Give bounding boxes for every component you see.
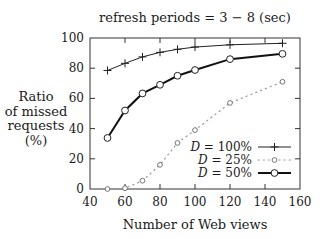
data-point bbox=[158, 162, 163, 167]
data-point bbox=[191, 43, 199, 51]
data-point bbox=[105, 187, 110, 192]
plot-frame bbox=[90, 38, 300, 189]
y-axis-label: Ratio of missed requests (%) bbox=[5, 89, 68, 148]
y-axis-label-line-3: requests bbox=[8, 118, 65, 133]
data-point bbox=[280, 79, 285, 84]
data-point bbox=[175, 141, 180, 146]
data-point bbox=[226, 41, 234, 49]
data-point bbox=[227, 56, 234, 63]
data-point bbox=[192, 67, 199, 74]
data-point bbox=[123, 186, 128, 191]
series-line bbox=[108, 82, 283, 189]
x-tick-label: 120 bbox=[219, 195, 242, 209]
legend-marker bbox=[271, 143, 279, 151]
data-point bbox=[279, 39, 287, 47]
data-point bbox=[104, 135, 111, 142]
legend-label: D = 50% bbox=[197, 166, 252, 180]
series-d-25- bbox=[105, 79, 285, 191]
y-tick-label: 20 bbox=[69, 152, 84, 166]
y-tick-label: 40 bbox=[69, 122, 84, 136]
y-tick-label: 80 bbox=[69, 61, 84, 75]
axis-ticks bbox=[90, 38, 300, 189]
data-point bbox=[174, 72, 181, 79]
x-axis-label: Number of Web views bbox=[123, 217, 268, 232]
legend-label: D = 100% bbox=[189, 140, 252, 154]
legend: D = 100%D = 25%D = 50% bbox=[189, 140, 291, 180]
x-tick-label: 80 bbox=[152, 195, 167, 209]
data-point bbox=[104, 66, 112, 74]
x-tick-label: 100 bbox=[184, 195, 207, 209]
data-point bbox=[157, 81, 164, 88]
data-point bbox=[121, 59, 129, 67]
data-point bbox=[279, 50, 286, 57]
y-axis-label-line-1: Ratio bbox=[18, 89, 53, 104]
data-point bbox=[193, 128, 198, 133]
chart: refresh periods = 3 − 8 (sec) Ratio of m… bbox=[0, 0, 323, 239]
y-axis-label-line-4: (%) bbox=[25, 133, 48, 148]
chart-title: refresh periods = 3 − 8 (sec) bbox=[99, 10, 291, 25]
series-group bbox=[104, 39, 287, 191]
data-point bbox=[122, 107, 129, 114]
x-tick-label: 60 bbox=[117, 195, 132, 209]
data-point bbox=[156, 48, 164, 56]
y-axis-label-line-2: of missed bbox=[5, 104, 68, 119]
legend-label: D = 25% bbox=[197, 153, 252, 167]
data-point bbox=[139, 53, 147, 61]
legend-entry: D = 50% bbox=[197, 166, 291, 180]
x-tick-label: 160 bbox=[289, 195, 312, 209]
legend-entry: D = 25% bbox=[197, 153, 291, 167]
data-point bbox=[228, 101, 233, 106]
legend-marker bbox=[272, 158, 277, 163]
x-tick-label: 140 bbox=[254, 195, 277, 209]
y-tick-label: 0 bbox=[76, 182, 84, 196]
y-tick-label: 60 bbox=[69, 91, 84, 105]
legend-marker bbox=[271, 170, 278, 177]
legend-entry: D = 100% bbox=[189, 140, 291, 154]
data-point bbox=[139, 90, 146, 97]
data-point bbox=[140, 178, 145, 183]
data-point bbox=[174, 45, 182, 53]
y-tick-label: 100 bbox=[61, 31, 84, 45]
x-tick-label: 40 bbox=[82, 195, 97, 209]
x-tick-labels: 406080100120140160 bbox=[82, 195, 311, 209]
